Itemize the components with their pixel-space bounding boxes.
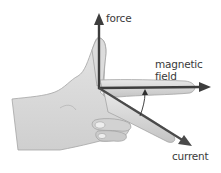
hand-illustration bbox=[0, 0, 221, 173]
magnetic-field-label-line2: field bbox=[155, 70, 215, 82]
magnetic-field-label: magnetic field bbox=[155, 58, 215, 82]
magnetic-field-label-line1: magnetic bbox=[155, 58, 215, 70]
fingernail bbox=[98, 133, 106, 138]
current-label: current bbox=[172, 150, 208, 162]
fingernail bbox=[95, 122, 105, 128]
fleming-left-hand-diagram: force magnetic field current bbox=[0, 0, 221, 173]
force-label: force bbox=[106, 12, 131, 24]
